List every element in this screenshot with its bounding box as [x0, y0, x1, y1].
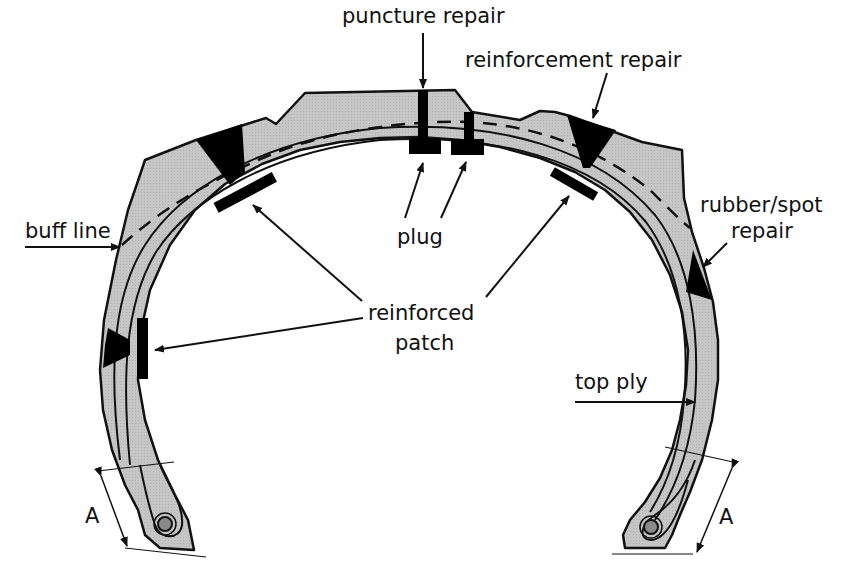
label-top-ply: top ply — [575, 370, 648, 394]
label-reinforced-patch-line2: patch — [395, 331, 454, 355]
plug-arrow-left — [405, 163, 423, 218]
reinforced-patch-arrow-left — [155, 318, 363, 350]
dim-left-arrow — [101, 476, 127, 546]
rubber-spot-repair-arrow — [703, 243, 727, 267]
label-puncture-repair: puncture repair — [342, 4, 505, 28]
bead-core-right — [644, 520, 658, 534]
label-plug: plug — [397, 225, 443, 249]
reinforced-patch-left-sidewall — [137, 318, 148, 379]
reinforced-patch-arrow-upper-left — [253, 205, 362, 301]
plug-left — [409, 138, 441, 154]
label-dimension-right: A — [719, 505, 734, 529]
tire-repair-diagram: puncture repair reinforcement repair buf… — [0, 0, 850, 578]
reinforcement-repair-arrow — [593, 73, 607, 118]
label-reinforced-patch-line1: reinforced — [368, 301, 474, 325]
bead-core-left — [158, 517, 172, 531]
label-dimension-left: A — [85, 504, 100, 528]
label-rubber-spot-line1: rubber/spot — [700, 193, 823, 217]
diagram-svg: puncture repair reinforcement repair buf… — [0, 0, 850, 578]
plug-right — [451, 139, 484, 155]
plug-arrow-right — [441, 162, 466, 218]
label-reinforcement-repair: reinforcement repair — [465, 48, 682, 72]
label-rubber-spot-line2: repair — [731, 219, 793, 243]
label-buff-line: buff line — [25, 219, 111, 243]
reinforced-patch-arrow-upper-right — [486, 196, 569, 297]
